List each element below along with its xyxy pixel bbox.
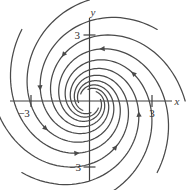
trajectories-group — [0, 0, 185, 190]
tick-label-x-negative-3: −3 — [18, 107, 30, 119]
x-axis-label: x — [174, 95, 180, 107]
trajectory-direction-arrow — [136, 111, 141, 117]
y-axis-label: y — [90, 6, 96, 18]
tick-label-y-negative-3: −3 — [69, 161, 81, 173]
phase-portrait-svg: −3 3 3 −3 x y — [0, 0, 186, 190]
trajectory-direction-arrow — [37, 85, 42, 91]
tick-label-y-positive-3: 3 — [75, 29, 81, 41]
trajectory-curve — [0, 75, 128, 167]
tick-label-x-positive-3: 3 — [149, 107, 155, 119]
phase-portrait-figure: −3 3 3 −3 x y — [0, 0, 186, 190]
trajectory-curve — [27, 0, 114, 142]
trajectory-curve — [51, 35, 186, 127]
